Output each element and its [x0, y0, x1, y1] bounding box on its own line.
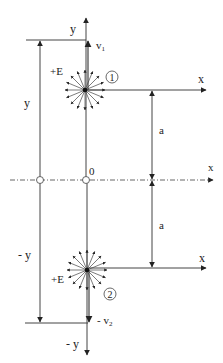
charge2-number: 2 — [108, 289, 113, 300]
neg-y-axis-label-bottom: - y — [66, 337, 79, 351]
neg-y-dimension-label: - y — [18, 248, 31, 262]
origin-label: 0 — [89, 165, 95, 177]
plus-e-label-top: +E — [50, 65, 63, 77]
a-label-lower: a — [159, 219, 164, 231]
charge2-dot — [85, 268, 90, 273]
y-axis-label-top: y — [70, 22, 76, 36]
origin-node — [83, 177, 90, 184]
charge1-number: 1 — [110, 72, 115, 83]
left-dimension-node — [37, 177, 44, 184]
x-axis-label-top: x — [198, 72, 204, 86]
neg-v2-label: - v2 — [97, 314, 113, 328]
y-dimension-label: y — [24, 96, 30, 110]
x-axis-label-mid: x — [208, 161, 214, 173]
v1-label: v1 — [96, 39, 106, 53]
two-charge-field-diagram: 1 2 y v1 +E x y a 0 x a - y x +E - v2 - … — [0, 0, 223, 363]
a-label-upper: a — [159, 124, 164, 136]
charge1-dot — [83, 88, 88, 93]
x-axis-label-bottom: x — [199, 251, 205, 265]
plus-e-label-bottom: +E — [51, 273, 64, 285]
